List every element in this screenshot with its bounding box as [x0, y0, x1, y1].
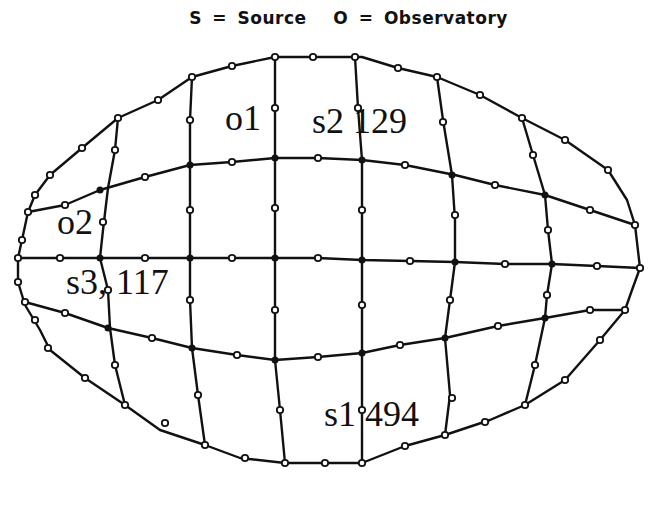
grid-line-v5 [437, 77, 455, 435]
grid-line-h3 [25, 302, 625, 360]
source-label-s1: s1 494 [324, 396, 419, 432]
observatory-label-o1: o1 [225, 100, 261, 136]
source-label-s3: s3, 117 [66, 264, 169, 300]
grid-line-v2 [190, 77, 205, 445]
observatory-label-o2: o2 [57, 204, 93, 240]
source-label-s2: s2 129 [312, 103, 407, 139]
